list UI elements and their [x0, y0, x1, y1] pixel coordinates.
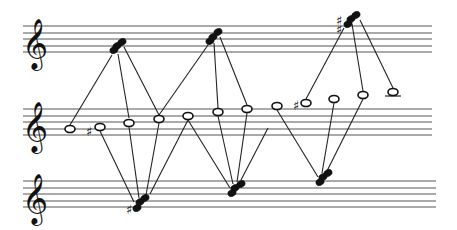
whole-notehead — [183, 113, 193, 120]
sharp-icon: ♯ — [86, 124, 92, 139]
treble-clef-icon: 𝄞 — [22, 172, 48, 226]
voice-leading-line — [360, 20, 393, 88]
whole-note — [272, 103, 282, 110]
whole-notehead — [358, 92, 368, 99]
whole-note — [124, 120, 134, 127]
top-chord — [205, 27, 223, 45]
voice-leading-line — [129, 127, 139, 198]
whole-note — [242, 106, 252, 113]
treble-clef-icon: 𝄞 — [22, 17, 48, 71]
whole-note — [213, 109, 223, 116]
voice-leading-line — [241, 128, 268, 180]
sharp-icon: ♯ — [336, 13, 342, 28]
voice-leading-line — [352, 24, 363, 91]
whole-notehead — [329, 96, 339, 103]
voice-leading-line — [322, 103, 334, 173]
voice-leading-line — [70, 55, 112, 125]
notes: ♯♯♯♯♯ — [65, 10, 401, 217]
bottom-chord: ♯ — [126, 193, 150, 217]
voice-leading-diagram: 𝄞𝄞𝄞 ♯♯♯♯♯ — [0, 0, 457, 230]
whole-notehead — [242, 106, 252, 113]
voice-leading-line — [150, 120, 188, 194]
whole-notehead — [95, 124, 105, 131]
whole-note — [65, 126, 75, 133]
voice-leading-line — [188, 120, 230, 188]
sharp-icon: ♯ — [293, 98, 299, 113]
voice-leading-line — [159, 45, 208, 115]
voice-leading-line — [100, 131, 134, 202]
whole-note — [385, 89, 401, 97]
voice-leading-line — [277, 110, 318, 177]
whole-notehead — [388, 89, 398, 96]
whole-notehead — [213, 109, 223, 116]
treble-clef-icon: 𝄞 — [22, 100, 48, 154]
voice-leading-line — [220, 37, 247, 105]
whole-notehead — [301, 100, 311, 107]
whole-notehead — [272, 103, 282, 110]
voice-leading-line — [124, 47, 159, 115]
voice-leading-line — [214, 43, 218, 108]
whole-note — [358, 92, 368, 99]
whole-note: ♯ — [293, 98, 311, 113]
bottom-chord — [315, 168, 333, 186]
whole-note — [329, 96, 339, 103]
voice-leading-line — [218, 116, 233, 184]
top-staff: 𝄞 — [22, 17, 432, 71]
voice-leading-line — [146, 123, 159, 195]
whole-notehead — [154, 116, 164, 123]
whole-notehead — [124, 120, 134, 127]
whole-note — [183, 113, 193, 120]
middle-staff: 𝄞 — [22, 100, 432, 154]
bottom-staff: 𝄞 — [22, 172, 436, 226]
whole-notehead — [65, 126, 75, 133]
voice-leading-line — [118, 54, 129, 118]
sharp-icon: ♯ — [126, 202, 132, 217]
whole-note — [154, 116, 164, 123]
